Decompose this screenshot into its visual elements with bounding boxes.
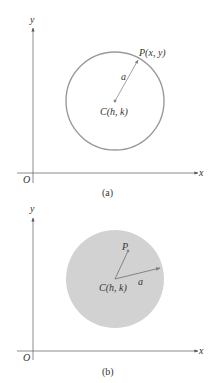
radius-label: a [121,71,126,82]
panel-b: y x O P a C(h, k) (b) [17,203,204,378]
radius-label: a [138,276,143,287]
point-label: P [121,241,128,252]
caption-b: (b) [102,366,114,378]
caption-a: (a) [102,187,113,199]
center-point [114,100,117,103]
x-axis-label: x [198,167,204,178]
center-label: C(h, k) [99,282,127,294]
origin-label: O [23,174,30,185]
center-label: C(h, k) [100,106,128,118]
panel-a: y x O P(x, y) a C(h, k) (a) [17,14,204,199]
x-axis-label: x [198,345,204,356]
point-label: P(x, y) [138,47,166,59]
y-axis-label: y [29,203,35,214]
origin-label: O [23,352,30,363]
radius-arrow [115,60,138,101]
y-axis-label: y [29,14,35,25]
circle-disk-diagram: y x O P(x, y) a C(h, k) (a) y x O P a C(… [0,0,214,383]
